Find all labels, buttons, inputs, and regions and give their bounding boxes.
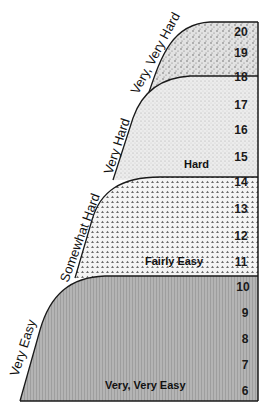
scale-number: 19 bbox=[234, 46, 248, 60]
scale-number: 15 bbox=[234, 150, 248, 164]
scale-number: 6 bbox=[242, 384, 249, 398]
diagram-canvas: 20 19 18 17 16 15 14 13 12 11 10 9 8 7 6… bbox=[0, 0, 270, 411]
scale-number: 12 bbox=[234, 229, 248, 243]
exertion-scale-diagram: 20 19 18 17 16 15 14 13 12 11 10 9 8 7 6… bbox=[0, 0, 270, 411]
scale-number: 16 bbox=[234, 123, 248, 137]
scale-number: 11 bbox=[235, 255, 248, 269]
scale-number: 17 bbox=[234, 98, 248, 112]
scale-number: 7 bbox=[242, 358, 249, 372]
scale-number: 9 bbox=[242, 306, 249, 320]
scale-number: 18 bbox=[234, 70, 248, 84]
scale-number: 13 bbox=[234, 202, 248, 216]
zone-label-hard: Hard bbox=[184, 158, 209, 170]
zone-label-fairly-easy: Fairly Easy bbox=[145, 255, 204, 267]
scale-number: 10 bbox=[236, 280, 250, 294]
scale-number: 8 bbox=[242, 332, 249, 346]
scale-number: 20 bbox=[234, 25, 248, 39]
zone-label-very-very-easy: Very, Very Easy bbox=[105, 379, 186, 391]
scale-number: 14 bbox=[234, 175, 248, 189]
